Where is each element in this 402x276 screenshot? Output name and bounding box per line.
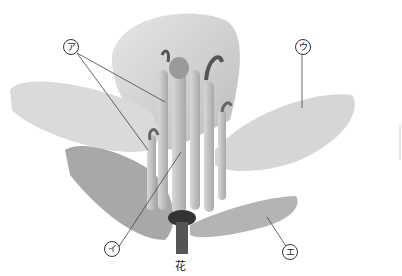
- petal-right: [215, 94, 355, 171]
- label-e: エ: [282, 244, 298, 260]
- petal-lower-left: [65, 146, 173, 240]
- label-a: ア: [63, 39, 79, 55]
- flower-diagram: ア イ ウ エ 花: [0, 0, 402, 276]
- flower-photo: [0, 0, 402, 276]
- label-u: ウ: [295, 39, 311, 55]
- label-i: イ: [104, 241, 120, 257]
- figure-caption: 花: [175, 257, 186, 273]
